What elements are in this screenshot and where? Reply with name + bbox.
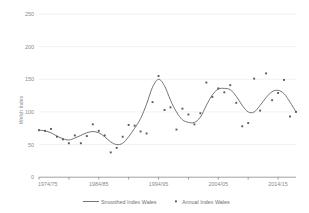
data-point xyxy=(187,114,189,116)
data-point xyxy=(158,75,160,77)
data-point xyxy=(229,84,231,86)
data-point xyxy=(271,99,273,101)
data-point xyxy=(265,72,267,74)
data-point xyxy=(116,147,118,149)
data-point xyxy=(205,82,207,84)
data-point xyxy=(241,125,243,127)
y-tick-label: 0 xyxy=(31,174,34,180)
x-tick-label: 1984/85 xyxy=(89,181,109,187)
y-tick-label: 200 xyxy=(25,44,34,50)
data-point xyxy=(140,131,142,133)
data-point xyxy=(283,79,285,81)
data-point xyxy=(289,116,291,118)
welsh-index-chart: 050100150200250 Welsh Index 1974/751984/… xyxy=(0,0,309,213)
x-tick-label: 2014/15 xyxy=(268,181,288,187)
y-tick-label: 50 xyxy=(28,142,34,148)
data-point xyxy=(110,151,112,153)
x-tick-label: 2004/05 xyxy=(209,181,229,187)
x-tick-label: 1994/95 xyxy=(149,181,169,187)
legend-label-smoothed: Smoothed Index Wales xyxy=(101,199,157,205)
data-point xyxy=(98,130,100,132)
chart-container: 050100150200250 Welsh Index 1974/751984/… xyxy=(0,0,309,213)
data-point xyxy=(104,134,106,136)
data-point xyxy=(92,123,94,125)
data-point xyxy=(211,96,213,98)
data-point xyxy=(193,123,195,125)
data-point xyxy=(199,112,201,114)
data-point xyxy=(68,142,70,144)
data-point xyxy=(253,78,255,80)
data-point xyxy=(134,125,136,127)
legend: Smoothed Index Wales Annual Index Wales xyxy=(83,199,230,205)
data-point xyxy=(235,102,237,104)
data-point xyxy=(122,136,124,138)
data-point xyxy=(295,111,297,113)
data-point xyxy=(56,136,58,138)
legend-point-swatch xyxy=(175,200,177,202)
data-point xyxy=(223,91,225,93)
data-point xyxy=(247,122,249,124)
data-point xyxy=(80,142,82,144)
y-axis-title: Welsh Index xyxy=(18,95,24,124)
data-point xyxy=(259,110,261,112)
data-point xyxy=(62,138,64,140)
data-point xyxy=(152,101,154,103)
data-point xyxy=(86,135,88,137)
data-point xyxy=(181,108,183,110)
data-point xyxy=(217,87,219,89)
data-point xyxy=(164,109,166,111)
data-point xyxy=(128,124,130,126)
y-tick-label: 250 xyxy=(25,11,34,17)
data-point xyxy=(44,130,46,132)
legend-label-annual: Annual Index Wales xyxy=(182,199,230,205)
data-point xyxy=(74,134,76,136)
data-point xyxy=(176,129,178,131)
data-point xyxy=(170,106,172,108)
data-point xyxy=(146,133,148,135)
data-point xyxy=(38,129,40,131)
y-tick-label: 150 xyxy=(25,76,34,82)
y-tick-label: 100 xyxy=(25,109,34,115)
data-point xyxy=(277,92,279,94)
data-point xyxy=(50,128,52,130)
x-tick-label: 1974/75 xyxy=(38,181,58,187)
